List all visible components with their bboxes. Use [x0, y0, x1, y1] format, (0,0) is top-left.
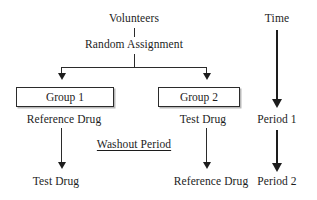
group2-box: Group 2 [158, 87, 240, 107]
group1-box-label: Group 1 [46, 91, 84, 103]
group2-period1-drug: Test Drug [180, 113, 226, 126]
arrowhead-group1-period2 [58, 162, 66, 169]
group2-period2-drug: Reference Drug [174, 175, 249, 188]
connector-time-to-period1 [276, 30, 278, 102]
group2-box-label: Group 2 [180, 91, 218, 103]
group1-box: Group 1 [16, 87, 114, 107]
group1-period1-drug: Reference Drug [27, 113, 102, 126]
node-volunteers: Volunteers [109, 12, 159, 25]
arrowhead-time-period1 [272, 99, 282, 108]
crossover-trial-diagram: Volunteers Random Assignment Group 1 Gro… [0, 0, 317, 200]
node-random-assignment: Random Assignment [85, 38, 183, 51]
timeline-period2-label: Period 2 [257, 175, 296, 188]
connector-volunteers-to-random-assignment [134, 28, 135, 37]
node-washout-period: Washout Period [97, 138, 171, 151]
arrowhead-group2-period2 [203, 162, 211, 169]
timeline-axis-label: Time [265, 12, 289, 25]
connector-random-assignment-stem [134, 54, 135, 68]
connector-period1-to-period2 [276, 130, 278, 166]
timeline-period1-label: Period 1 [257, 113, 296, 126]
arrowhead-to-group1 [58, 73, 66, 80]
connector-group1-washout [61, 128, 62, 163]
arrowhead-to-group2 [203, 73, 211, 80]
connector-randomization-bar [61, 67, 207, 68]
group1-period2-drug: Test Drug [33, 175, 79, 188]
connector-group2-washout [206, 128, 207, 163]
arrowhead-time-period2 [272, 163, 282, 172]
